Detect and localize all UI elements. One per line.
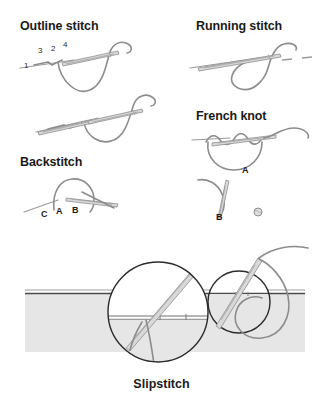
- dash-stitch-1-icon: [282, 59, 292, 60]
- dash-stitch-2-icon: [302, 57, 312, 58]
- outline-step-label-3: 3: [38, 47, 42, 55]
- slipstitch-figure: [0, 244, 323, 374]
- outline-step-label-1: 1: [24, 62, 28, 70]
- outline-step-label-4: 4: [63, 41, 67, 49]
- french-knot-figure-b: [196, 176, 306, 224]
- running-stitch-heading: Running stitch: [196, 20, 282, 33]
- french-knot-figure-a: [190, 126, 320, 176]
- french-knot-label-b: B: [216, 213, 223, 222]
- thread-tail-icon: [259, 246, 308, 258]
- outline-stitch-heading: Outline stitch: [20, 20, 98, 33]
- base-line-icon: [36, 118, 98, 132]
- outline-stitch-figure-bottom: [34, 92, 194, 148]
- diagram-page: Outline stitch 1 3 2 4: [0, 0, 323, 406]
- slipstitch-caption: Slipstitch: [0, 378, 323, 391]
- thread-loop-icon: [232, 43, 297, 89]
- magnifier-left-icon: [106, 260, 212, 370]
- thread-loop-icon: [58, 42, 131, 91]
- needle-icon: [62, 51, 119, 66]
- french-knot-heading: French knot: [196, 110, 266, 123]
- backstitch-label-b: B: [72, 206, 79, 215]
- backstitch-heading: Backstitch: [20, 156, 82, 169]
- thread-tail-icon: [264, 128, 308, 138]
- running-stitch-figure: [188, 38, 322, 96]
- backstitch-label-c: C: [41, 210, 48, 219]
- outline-step-label-2: 2: [51, 45, 55, 53]
- backstitch-label-a: A: [56, 207, 63, 216]
- french-knot-label-a: A: [242, 166, 249, 175]
- base-line-icon: [192, 138, 230, 140]
- needle-icon-right: [88, 109, 143, 124]
- thread-loop-icon: [208, 142, 262, 170]
